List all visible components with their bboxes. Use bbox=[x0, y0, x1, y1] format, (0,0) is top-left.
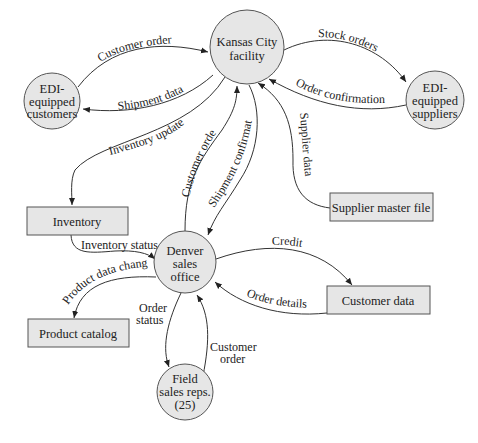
edge-label-order-confirmation: Order confirmation bbox=[294, 75, 385, 106]
svg-text:customers: customers bbox=[27, 107, 78, 121]
svg-text:Product catalog: Product catalog bbox=[39, 327, 118, 341]
edge-label-order-status-2: status bbox=[136, 313, 164, 327]
edge-label-supplier-data: Supplier data bbox=[297, 112, 316, 177]
node-denver-sales-office: Denver sales office bbox=[154, 231, 216, 293]
svg-text:Inventory: Inventory bbox=[53, 215, 102, 229]
svg-text:sales reps.: sales reps. bbox=[159, 385, 210, 399]
node-supplier-master-file: Supplier master file bbox=[330, 193, 433, 221]
edge-label-shipment-data: Shipment data bbox=[117, 81, 186, 113]
edge-label-inventory-status: Inventory status bbox=[81, 238, 158, 252]
node-edi-customers: EDI- equipped customers bbox=[24, 73, 80, 129]
svg-text:facility: facility bbox=[229, 49, 265, 63]
svg-text:Supplier master file: Supplier master file bbox=[332, 201, 431, 215]
edge-customer-order-bottom bbox=[197, 295, 208, 376]
svg-text:Denver: Denver bbox=[167, 244, 205, 258]
edge-label-stock-orders: Stock orders bbox=[318, 26, 381, 55]
edge-label-customer-order-bottom-2: order bbox=[220, 352, 245, 366]
edge-label-credit: Credit bbox=[272, 234, 305, 250]
edge-supplier-data bbox=[258, 83, 330, 208]
svg-text:Field: Field bbox=[172, 372, 198, 386]
node-inventory: Inventory bbox=[27, 207, 128, 235]
edge-label-inventory-update: Inventory update bbox=[107, 115, 186, 158]
svg-text:suppliers: suppliers bbox=[412, 107, 457, 121]
node-product-catalog: Product catalog bbox=[28, 319, 129, 347]
svg-text:sales: sales bbox=[173, 257, 197, 271]
edge-credit bbox=[216, 248, 352, 285]
svg-text:office: office bbox=[171, 270, 200, 284]
edge-stock-orders bbox=[284, 40, 406, 82]
node-field-sales-reps: Field sales reps. (25) bbox=[157, 364, 213, 420]
svg-text:EDI-: EDI- bbox=[423, 81, 448, 95]
svg-text:EDI-: EDI- bbox=[40, 82, 65, 96]
edge-order-status bbox=[166, 293, 181, 367]
edge-label-customer-order-top: Customer order bbox=[95, 32, 172, 64]
svg-text:equipped: equipped bbox=[412, 94, 459, 108]
svg-text:Kansas City: Kansas City bbox=[217, 35, 279, 49]
node-customer-data: Customer data bbox=[327, 286, 430, 314]
node-edi-suppliers: EDI- equipped suppliers bbox=[406, 71, 464, 129]
svg-text:(25): (25) bbox=[175, 398, 196, 412]
data-flow-diagram: Customer order Shipment data Stock order… bbox=[0, 0, 478, 443]
svg-text:Customer data: Customer data bbox=[342, 294, 415, 308]
node-kansas-city-facility: Kansas City facility bbox=[210, 10, 284, 84]
edge-label-order-details: Order details bbox=[245, 286, 308, 311]
